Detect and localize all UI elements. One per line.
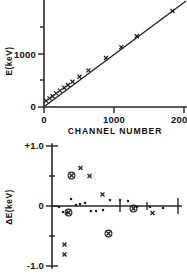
figure-container: 0 1000 0 1000 2000 CHANNEL NUMBER E(keV) xyxy=(0,0,187,274)
data-point-cross xyxy=(62,86,66,90)
residual-dot xyxy=(75,204,78,207)
lower-cross-points xyxy=(63,166,155,257)
data-point-cross xyxy=(54,91,58,95)
lower-ytick-label-plus1: +1.0 xyxy=(24,140,44,151)
residual-cross xyxy=(79,166,83,170)
residual-dot xyxy=(79,203,82,206)
figure-svg: 0 1000 0 1000 2000 CHANNEL NUMBER E(keV) xyxy=(0,0,187,274)
data-point-cross xyxy=(78,75,82,79)
data-point-cross xyxy=(71,80,75,84)
residual-dot xyxy=(62,211,65,214)
lower-y-axis-title: ΔE(keV) xyxy=(4,189,14,225)
upper-ytick-label-0: 0 xyxy=(31,101,36,112)
upper-y-axis-title: E(keV) xyxy=(4,46,14,75)
residual-dot xyxy=(58,206,61,209)
data-point-cross xyxy=(171,9,175,13)
upper-ytick-label-1000: 1000 xyxy=(14,49,36,60)
residual-cross xyxy=(151,211,155,215)
upper-xtick-label-2000: 2000 xyxy=(171,114,187,125)
residual-cross xyxy=(63,243,67,247)
lower-ytick-label-zero: 0 xyxy=(39,200,44,211)
calibration-fit-line xyxy=(45,1,186,106)
residual-dot xyxy=(70,198,73,201)
data-point-cross xyxy=(104,56,108,60)
residual-dot xyxy=(90,210,93,213)
data-point-cross xyxy=(66,83,70,87)
residual-dot xyxy=(162,207,165,210)
upper-x-axis-title: CHANNEL NUMBER xyxy=(68,126,163,136)
upper-xtick-label-1000: 1000 xyxy=(103,114,125,125)
residual-dot xyxy=(149,206,152,209)
residual-dot xyxy=(119,199,122,202)
residual-dot xyxy=(84,202,87,205)
residual-dot xyxy=(95,210,98,213)
residual-dot xyxy=(102,209,105,212)
residual-circled-cross xyxy=(105,230,112,237)
data-point-cross xyxy=(87,68,91,72)
residual-cross xyxy=(88,174,92,178)
residual-circled-cross xyxy=(68,172,75,179)
lower-ytick-label-minus1: -1.0 xyxy=(27,260,44,271)
data-point-cross xyxy=(58,89,62,93)
upper-xtick-label-0: 0 xyxy=(41,114,46,125)
residual-dot xyxy=(109,199,112,202)
residual-cross xyxy=(63,253,67,257)
residual-dot xyxy=(127,200,130,203)
upper-calibration-plot: 0 1000 0 1000 2000 CHANNEL NUMBER E(keV) xyxy=(4,0,187,136)
lower-residual-plot: +1.0 0 -1.0 ΔE(keV) xyxy=(4,140,182,271)
upper-data-points xyxy=(44,9,174,103)
residual-cross xyxy=(101,193,105,197)
